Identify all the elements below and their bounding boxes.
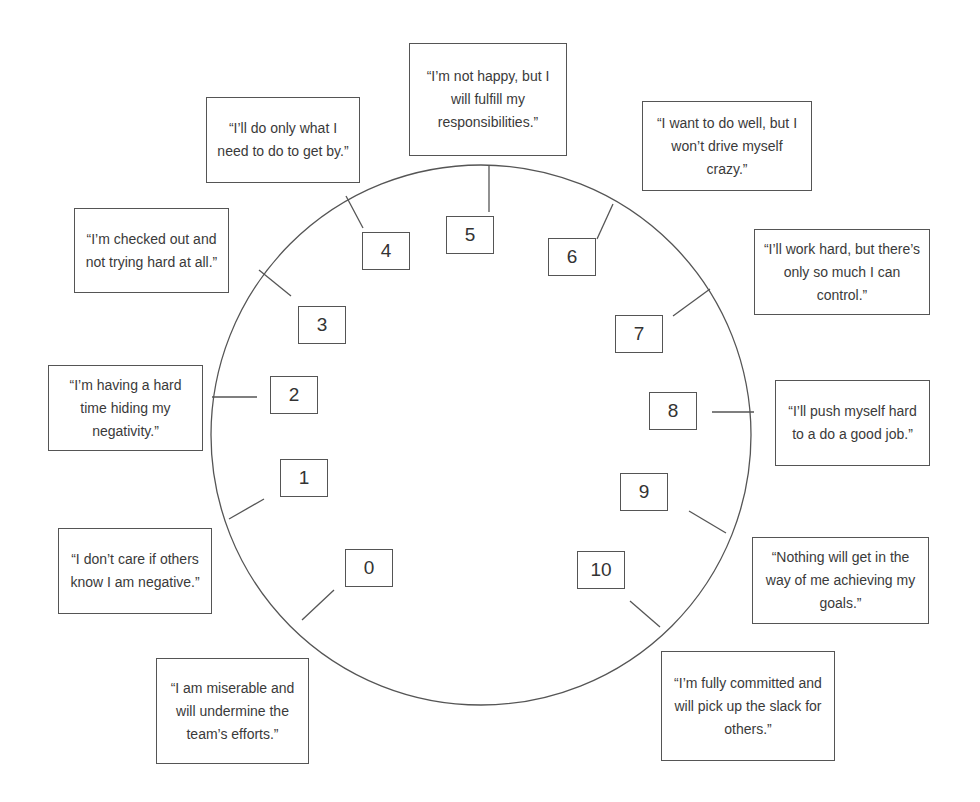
quote-text: “I’m having a hard time hiding my negati… [55, 374, 196, 443]
tick-6 [597, 204, 613, 239]
scale-value-2: 2 [270, 376, 318, 414]
quote-box-1: “I don’t care if others know I am negati… [58, 528, 212, 614]
scale-value-label: 7 [634, 323, 645, 345]
scale-value-label: 5 [465, 224, 476, 246]
scale-value-label: 0 [364, 557, 375, 579]
scale-value-8: 8 [649, 392, 697, 430]
quote-box-9: “Nothing will get in the way of me achie… [752, 537, 929, 624]
scale-value-5: 5 [446, 216, 494, 254]
quote-text: “I am miserable and will undermine the t… [163, 677, 302, 746]
tick-1 [229, 499, 264, 519]
quote-box-2: “I’m having a hard time hiding my negati… [48, 365, 203, 451]
scale-value-label: 3 [317, 314, 328, 336]
quote-text: “I’ll work hard, but there’s only so muc… [761, 238, 923, 307]
scale-value-7: 7 [615, 315, 663, 353]
scale-value-6: 6 [548, 238, 596, 276]
quote-box-8: “I’ll push myself hard to a do a good jo… [775, 380, 930, 466]
tick-0 [302, 590, 334, 620]
quote-text: “I’ll do only what I need to do to get b… [213, 117, 353, 163]
quote-box-3: “I’m checked out and not trying hard at … [74, 208, 229, 293]
scale-value-label: 9 [639, 481, 650, 503]
quote-text: “I’m checked out and not trying hard at … [81, 228, 222, 274]
scale-value-label: 8 [668, 400, 679, 422]
quote-text: “I’ll push myself hard to a do a good jo… [782, 400, 923, 446]
quote-text: “I’m fully committed and will pick up th… [668, 672, 828, 741]
scale-value-0: 0 [345, 549, 393, 587]
quote-text: “I don’t care if others know I am negati… [65, 548, 205, 594]
tick-9 [689, 511, 726, 533]
scale-value-1: 1 [280, 459, 328, 497]
quote-box-0: “I am miserable and will undermine the t… [156, 658, 309, 764]
quote-box-6: “I want to do well, but I won’t drive my… [642, 101, 812, 191]
scale-value-label: 6 [567, 246, 578, 268]
tick-3 [259, 270, 291, 296]
quote-box-10: “I’m fully committed and will pick up th… [661, 651, 835, 761]
scale-value-label: 10 [590, 559, 611, 581]
scale-value-label: 4 [381, 240, 392, 262]
scale-value-10: 10 [577, 551, 625, 589]
quote-text: “I want to do well, but I won’t drive my… [649, 112, 805, 181]
quote-box-7: “I’ll work hard, but there’s only so muc… [754, 229, 930, 315]
scale-value-label: 1 [299, 467, 310, 489]
scale-value-4: 4 [362, 232, 410, 270]
quote-text: “Nothing will get in the way of me achie… [759, 546, 922, 615]
quote-text: “I’m not happy, but I will fulfill my re… [416, 65, 560, 134]
tick-7 [673, 289, 710, 316]
quote-box-5: “I’m not happy, but I will fulfill my re… [409, 43, 567, 156]
quote-box-4: “I’ll do only what I need to do to get b… [206, 97, 360, 183]
tick-4 [346, 196, 363, 228]
scale-value-3: 3 [298, 306, 346, 344]
scale-value-label: 2 [289, 384, 300, 406]
scale-value-9: 9 [620, 473, 668, 511]
tick-10 [630, 601, 660, 627]
